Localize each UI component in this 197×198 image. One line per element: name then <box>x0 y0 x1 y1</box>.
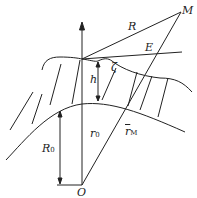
label-M: M <box>182 4 193 17</box>
axis-arrow-icon <box>80 22 85 30</box>
label-h: h <box>90 73 97 86</box>
label-zeta: ζ <box>111 61 117 74</box>
label-O: O <box>77 186 86 198</box>
label-R: R <box>128 20 136 33</box>
label-rM: rM <box>125 125 137 138</box>
geoid-diagram: M R E h ζ r0 rM R0 O <box>0 0 197 198</box>
label-E: E <box>145 41 153 54</box>
label-r0: r0 <box>90 127 100 140</box>
physical-surface <box>42 57 192 92</box>
label-R0: R0 <box>42 142 55 155</box>
E-line <box>82 52 182 59</box>
diagram-lines <box>0 0 197 198</box>
